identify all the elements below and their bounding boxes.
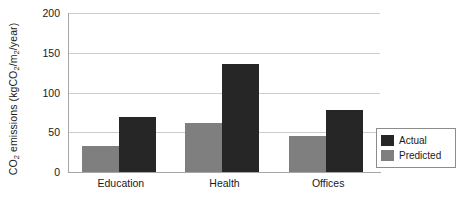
bar-predicted-health [185, 123, 222, 172]
legend: ActualPredicted [376, 128, 456, 168]
bars-layer [69, 13, 380, 172]
x-tick-label: Education [69, 177, 173, 189]
bar-group [276, 13, 380, 172]
legend-swatch-icon [381, 150, 394, 161]
bar-actual-offices [326, 110, 363, 172]
legend-label: Actual [399, 135, 427, 146]
y-axis-title: CO2 emissions (kgCO2/m2/year) [0, 0, 26, 198]
bar-actual-education [119, 117, 156, 172]
bar-group [173, 13, 277, 172]
y-tick-label: 150 [26, 47, 60, 59]
bar-predicted-education [82, 146, 119, 172]
bar-chart: CO2 emissions (kgCO2/m2/year) 0501001502… [0, 0, 465, 198]
y-tick-label: 50 [26, 126, 60, 138]
bar-predicted-offices [289, 136, 326, 172]
y-tick-label: 0 [26, 166, 60, 178]
bar-group [69, 13, 173, 172]
x-tick-label: Health [173, 177, 277, 189]
bar-actual-health [222, 64, 259, 172]
legend-item-actual: Actual [381, 133, 450, 148]
y-tick-label: 100 [26, 87, 60, 99]
legend-label: Predicted [399, 150, 441, 161]
y-tick-label: 200 [26, 7, 60, 19]
x-tick-label: Offices [276, 177, 380, 189]
legend-item-predicted: Predicted [381, 148, 450, 163]
legend-swatch-icon [381, 135, 394, 146]
y-axis-title-text: CO2 emissions (kgCO2/m2/year) [7, 23, 19, 176]
